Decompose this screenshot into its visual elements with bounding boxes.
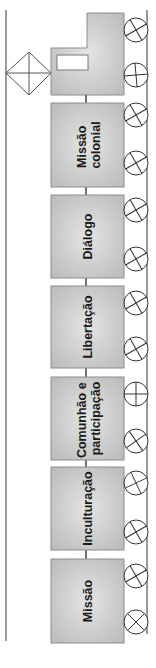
wagon-label: Diálogo	[81, 213, 95, 259]
wagon-label: participação	[89, 381, 103, 455]
train-diagram: Missão colonial Diálogo Libertação Comun…	[0, 0, 156, 668]
wagon-missao-colonial: Missão colonial	[51, 103, 124, 187]
svg-text:Missão: Missão	[81, 579, 95, 622]
wagon-missao: Missão	[51, 559, 124, 643]
wheel-icon	[124, 610, 148, 634]
wagon-inculturacao: Inculturação	[51, 467, 124, 550]
wagon-label: colonial	[89, 121, 103, 168]
wheel-icon	[124, 63, 148, 87]
wagon-label: Missão	[75, 125, 89, 168]
wagon-comunhao-participacao: Comunhão e participação	[51, 377, 124, 460]
wheel-icon	[124, 18, 148, 42]
svg-text:Libertação: Libertação	[81, 295, 95, 359]
svg-text:Missão colonial: Missão colonial	[75, 121, 103, 168]
wagon-label: Missão	[81, 579, 95, 622]
wheel-icon	[124, 198, 148, 222]
locomotive	[51, 13, 124, 95]
wheel-icon	[124, 429, 148, 453]
wheel-icon	[124, 337, 148, 361]
svg-text:Diálogo: Diálogo	[81, 213, 95, 259]
wheel-icon	[124, 103, 148, 127]
wheel-icon	[124, 247, 148, 271]
wheel-icon	[124, 520, 148, 544]
wagon-libertacao: Libertação	[51, 286, 124, 368]
wheels	[124, 18, 148, 634]
svg-text:Inculturação: Inculturação	[81, 471, 95, 546]
wheel-icon	[124, 151, 148, 175]
wagon-label: Inculturação	[81, 471, 95, 546]
locomotive-window	[57, 55, 88, 70]
wheel-icon	[124, 471, 148, 495]
svg-text:Comunhão e participação: Comunhão e participação	[75, 379, 103, 458]
wagon-dialogo: Diálogo	[51, 195, 124, 278]
wheel-icon	[124, 564, 148, 588]
pantograph-diamond-icon	[6, 52, 51, 95]
wheel-icon	[124, 291, 148, 315]
wagon-label: Comunhão e	[75, 382, 89, 458]
wheel-icon	[124, 382, 148, 406]
wagon-label: Libertação	[81, 295, 95, 359]
